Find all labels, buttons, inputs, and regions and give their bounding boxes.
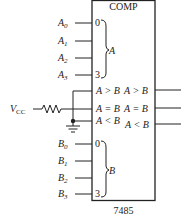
- vcc-supply: VCC: [10, 103, 62, 116]
- cascade-inputs: A > B A = B A < B: [62, 85, 120, 132]
- cascade-eq-label: A = B: [95, 103, 120, 114]
- vcc-label: VCC: [10, 103, 26, 116]
- chip-title: COMP: [109, 1, 138, 12]
- resistor-icon: [42, 105, 62, 113]
- cascade-tie-wire: [73, 91, 92, 121]
- cascade-lt-label: A < B: [95, 115, 120, 126]
- b-group-label: B: [109, 165, 115, 176]
- b3-label: B3: [58, 188, 68, 201]
- b2-label: B2: [58, 172, 68, 185]
- a2-label: A2: [57, 52, 68, 65]
- b-index-3: 3: [95, 188, 100, 199]
- comparator-diagram: COMP A0 A1 A2 A3 0 3 A A > B A = B A < B…: [0, 0, 185, 222]
- chip-body: [92, 1, 155, 201]
- a3-label: A3: [57, 69, 68, 82]
- b-index-0: 0: [95, 138, 100, 149]
- out-gt-label: A > B: [123, 85, 148, 96]
- cascade-gt-label: A > B: [95, 85, 120, 96]
- a0-label: A0: [57, 17, 68, 30]
- b0-label: B0: [58, 138, 68, 151]
- part-number: 7485: [114, 205, 134, 216]
- b1-label: B1: [58, 155, 68, 168]
- a-group-label: A: [108, 45, 116, 56]
- a-index-3: 3: [95, 69, 100, 80]
- out-lt-label: A < B: [124, 119, 149, 130]
- a-index-0: 0: [95, 17, 100, 28]
- a1-label: A1: [57, 35, 68, 48]
- out-eq-label: A = B: [123, 103, 148, 114]
